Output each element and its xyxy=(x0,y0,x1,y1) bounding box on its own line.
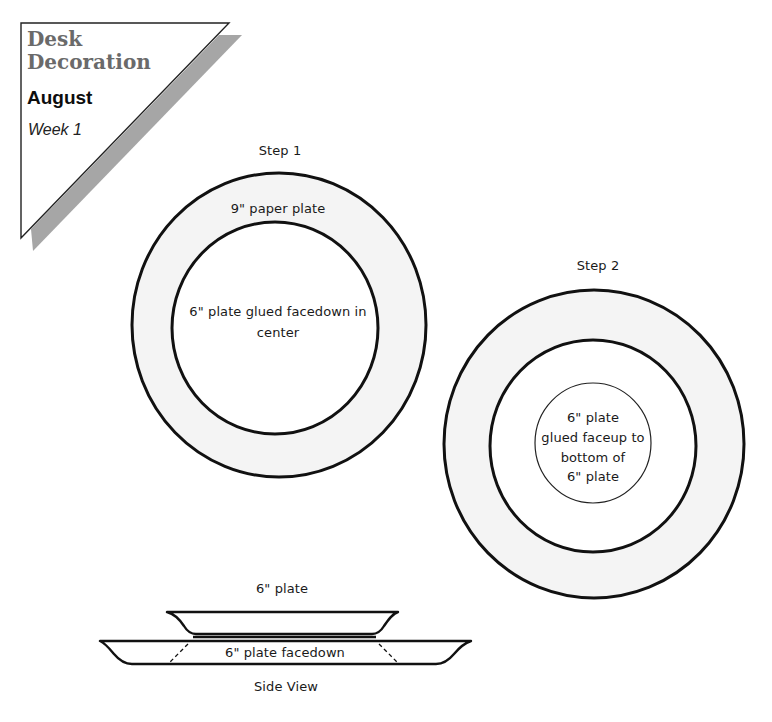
step2-center-label-line2: glued faceup to xyxy=(541,430,644,445)
step1-inner-plate-label-line2: center xyxy=(257,325,299,340)
step1-label: Step 1 xyxy=(259,143,302,158)
step1-outer-plate-label: 9" paper plate xyxy=(231,201,326,216)
step2-label: Step 2 xyxy=(577,258,620,273)
step2-center-label-line3: bottom of xyxy=(561,450,626,465)
week-label: Week 1 xyxy=(28,121,82,139)
month-label: August xyxy=(27,87,92,109)
side-bottom-plate-label: 6" plate facedown xyxy=(225,645,345,660)
step1-inner-plate-label-line1: 6" plate glued facedown in xyxy=(189,304,366,319)
diagram-page: Desk Decoration August Week 1 Step 1 9" … xyxy=(0,0,772,722)
side-top-plate-label: 6" plate xyxy=(256,581,308,596)
diagram-artwork xyxy=(0,0,772,722)
title-line-desk: Desk xyxy=(27,28,82,50)
step2-center-label-line1: 6" plate xyxy=(567,410,619,425)
step2-center-label-line4: 6" plate xyxy=(567,469,619,484)
side-top-plate xyxy=(167,612,398,634)
title-line-decoration: Decoration xyxy=(27,51,151,73)
side-view-caption: Side View xyxy=(254,679,318,694)
